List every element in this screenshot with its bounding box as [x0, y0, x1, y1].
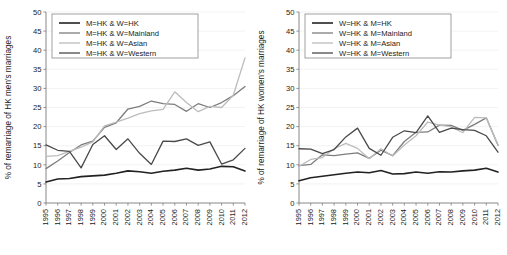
x-tick-label: 2002 [376, 209, 385, 225]
x-tick-label: 2012 [240, 209, 249, 225]
legend: M=HK & W=HKM=HK & W=MainlandM=HK & W=Asi… [52, 14, 198, 58]
x-tick-label: 2001 [111, 209, 120, 225]
x-tick-label: 1995 [294, 209, 303, 225]
x-tick-label: 1999 [341, 209, 350, 225]
series-line-0 [46, 166, 245, 182]
x-tick-label: 2010 [217, 209, 226, 225]
x-tick-label: 2000 [99, 209, 108, 225]
x-tick-label: 2000 [352, 209, 361, 225]
legend-label-2: W=HK & M=Asian [339, 39, 400, 48]
y-tick-label: 15 [286, 141, 294, 150]
y-tick-label: 20 [33, 122, 41, 131]
series-line-3 [46, 136, 245, 168]
y-tick-label: 30 [286, 84, 294, 93]
x-tick-label: 2003 [135, 209, 144, 225]
y-tick-label: 45 [286, 27, 294, 36]
series-lines [299, 116, 498, 181]
y-tick-label: 5 [37, 180, 41, 189]
y-tick-label: 35 [33, 65, 41, 74]
y-axis-title: % of remarriage of HK men's marriages [4, 36, 13, 180]
x-tick-label: 1999 [88, 209, 97, 225]
y-axis-title: % of remarriage of HK women's marriages [257, 31, 266, 185]
x-tick-label: 2001 [364, 209, 373, 225]
y-tick-label: 20 [286, 122, 294, 131]
legend-label-3: M=HK & W=Western [86, 49, 156, 58]
x-tick-label: 1998 [76, 209, 85, 225]
x-tick-label: 2003 [388, 209, 397, 225]
x-tick-label: 2007 [434, 209, 443, 225]
x-tick-label: 2004 [399, 209, 408, 225]
x-tick-label: 1997 [317, 209, 326, 225]
x-tick-label: 2008 [193, 209, 202, 225]
series-line-1 [46, 86, 245, 168]
x-tick-label: 2002 [123, 209, 132, 225]
x-tick-label: 2007 [181, 209, 190, 225]
y-tick-label: 50 [33, 8, 41, 17]
x-tick-label: 2009 [458, 209, 467, 225]
chart-panel-left: 0510152025303540455019951996199719981999… [0, 0, 253, 255]
y-tick-label: 50 [286, 8, 294, 17]
x-tick-label: 2011 [228, 209, 237, 225]
legend-label-1: M=HK & W=Mainland [86, 29, 159, 38]
legend-label-3: W=HK & M=Western [339, 49, 409, 58]
legend-label-0: W=HK & M=HK [339, 19, 392, 28]
x-tick-label: 2004 [146, 209, 155, 225]
x-tick-label: 1995 [41, 209, 50, 225]
legend-label-2: M=HK & W=Asian [86, 39, 147, 48]
x-tick-label: 1998 [329, 209, 338, 225]
y-tick-label: 10 [33, 161, 41, 170]
y-tick-label: 10 [286, 161, 294, 170]
x-tick-label: 2010 [470, 209, 479, 225]
y-tick-label: 0 [37, 199, 41, 208]
y-tick-label: 25 [33, 103, 41, 112]
y-tick-label: 40 [33, 46, 41, 55]
series-line-2 [46, 58, 245, 157]
y-tick-label: 30 [33, 84, 41, 93]
y-tick-label: 15 [33, 141, 41, 150]
legend: W=HK & M=HKW=HK & M=MainlandW=HK & M=Asi… [305, 14, 451, 58]
x-tick-label: 1996 [53, 209, 62, 225]
legend-label-0: M=HK & W=HK [86, 19, 139, 28]
y-tick-label: 40 [286, 46, 294, 55]
figure-container: 0510152025303540455019951996199719981999… [0, 0, 507, 255]
x-tick-label: 1997 [64, 209, 73, 225]
chart-panel-right: 0510152025303540455019951996199719981999… [253, 0, 506, 255]
x-tick-label: 2011 [481, 209, 490, 225]
x-tick-label: 2008 [446, 209, 455, 225]
x-tick-label: 2005 [158, 209, 167, 225]
x-tick-label: 2009 [205, 209, 214, 225]
series-line-2 [299, 117, 498, 166]
x-axis-ticks: 1995199619971998199920002001200220032004… [294, 203, 502, 225]
y-tick-label: 25 [286, 103, 294, 112]
x-tick-label: 1996 [306, 209, 315, 225]
series-line-0 [299, 168, 498, 181]
x-tick-label: 2006 [170, 209, 179, 225]
y-tick-label: 5 [290, 180, 294, 189]
y-axis-ticks: 05101520253035404550 [286, 8, 299, 208]
legend-label-1: W=HK & M=Mainland [339, 29, 412, 38]
x-tick-label: 2005 [411, 209, 420, 225]
y-tick-label: 0 [290, 199, 294, 208]
x-axis-ticks: 1995199619971998199920002001200220032004… [41, 203, 249, 225]
y-tick-label: 35 [286, 65, 294, 74]
y-axis-ticks: 05101520253035404550 [33, 8, 46, 208]
series-lines [46, 58, 245, 182]
y-tick-label: 45 [33, 27, 41, 36]
x-tick-label: 2012 [493, 209, 502, 225]
x-tick-label: 2006 [423, 209, 432, 225]
